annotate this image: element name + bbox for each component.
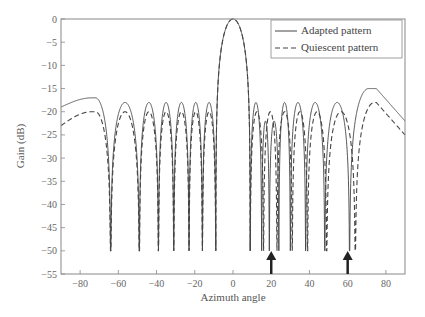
y-tick-label: −10: [41, 60, 57, 71]
x-tick-label: −80: [72, 278, 88, 289]
y-tick-label: −15: [41, 83, 57, 94]
x-tick-label: 20: [266, 278, 276, 289]
x-tick-label: −20: [187, 278, 203, 289]
y-tick-label: −50: [41, 245, 57, 256]
legend-item-quiescent: Quiescent pattern: [301, 41, 379, 53]
y-tick-label: −25: [41, 129, 57, 140]
chart-canvas: 0−5−10−15−20−25−30−35−40−45−50−55 −80−60…: [0, 0, 425, 317]
arrowhead-icon: [343, 251, 353, 260]
legend: Adapted pattern Quiescent pattern: [271, 20, 402, 58]
y-axis-title: Gain (dB): [14, 124, 27, 169]
x-tick-label: −60: [111, 278, 127, 289]
x-tick-label: 0: [231, 278, 236, 289]
y-tick-label: −40: [41, 199, 57, 210]
y-tick-label: −55: [41, 269, 57, 280]
y-tick-label: −45: [41, 222, 57, 233]
x-tick-label: 60: [343, 278, 353, 289]
x-tick-label: 40: [304, 278, 314, 289]
y-tick-label: −5: [46, 37, 57, 48]
legend-item-adapted: Adapted pattern: [301, 24, 372, 36]
x-tick-label: 80: [381, 278, 391, 289]
y-tick-label: −35: [41, 176, 57, 187]
y-tick-label: −30: [41, 153, 57, 164]
y-tick-label: −20: [41, 106, 57, 117]
arrowhead-icon: [266, 251, 276, 260]
x-tick-label: −40: [149, 278, 165, 289]
x-axis: −80−60−40−20020406080: [72, 270, 391, 289]
y-tick-label: 0: [52, 14, 57, 25]
x-axis-title: Azimuth angle: [200, 291, 265, 303]
